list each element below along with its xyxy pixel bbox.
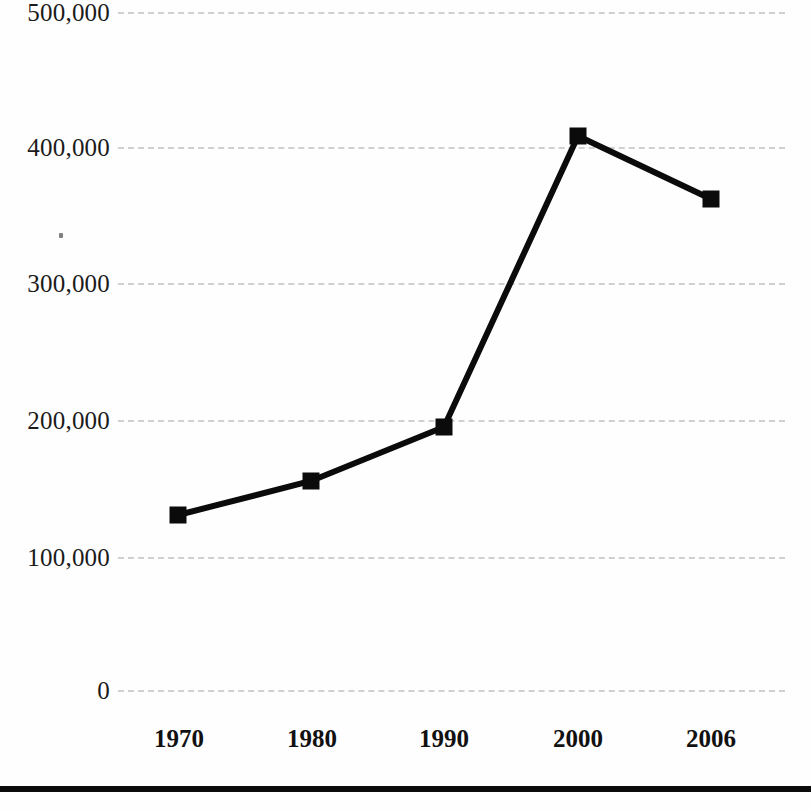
data-point-1980 xyxy=(303,473,320,490)
x-axis-label-2006: 2006 xyxy=(631,726,791,751)
series-line xyxy=(178,136,711,515)
data-point-2000 xyxy=(570,128,587,145)
data-series-svg xyxy=(0,0,811,760)
bottom-horizontal-rule xyxy=(0,786,811,792)
data-point-1970 xyxy=(170,507,187,524)
plot-area: 500,000 400,000 300,000 200,000 100,000 … xyxy=(0,0,811,760)
series-markers xyxy=(170,128,720,524)
line-chart: 500,000 400,000 300,000 200,000 100,000 … xyxy=(0,0,811,811)
data-point-1990 xyxy=(436,419,453,436)
data-point-2006 xyxy=(703,191,720,208)
